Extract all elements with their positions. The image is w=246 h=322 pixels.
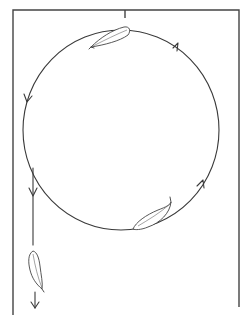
leaf-falling-icon	[29, 251, 44, 292]
orbit-diagram: Orbit of a drifting leaf within a frame …	[0, 0, 246, 322]
arrow-bottom-icon	[31, 292, 39, 308]
circular-path	[23, 30, 219, 230]
arrow-bottom-right-icon	[197, 180, 204, 188]
leaf-bottom-right-icon	[133, 197, 171, 230]
frame	[13, 10, 239, 315]
